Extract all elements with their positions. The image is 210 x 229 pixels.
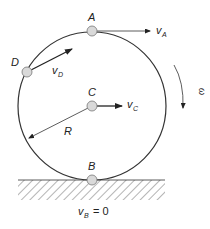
point-b — [87, 175, 97, 185]
omega-rotation-arrow — [174, 65, 183, 108]
label-vc-sub: C — [133, 105, 139, 112]
point-c — [87, 101, 97, 111]
rolling-wheel-diagram: A D C B R v A v D v C v B = 0 ω — [0, 0, 210, 229]
label-a: A — [87, 11, 95, 23]
label-c: C — [88, 86, 96, 98]
label-radius: R — [64, 125, 72, 137]
label-va-sub: A — [161, 31, 167, 38]
label-vb-eq: = 0 — [93, 205, 109, 217]
label-b: B — [88, 160, 95, 172]
point-a — [87, 26, 97, 36]
point-d — [22, 67, 32, 77]
label-omega: ω — [197, 88, 207, 95]
radius-line — [29, 106, 92, 138]
label-vd-sub: D — [58, 71, 63, 78]
label-d: D — [11, 56, 19, 68]
label-vb-sub: B — [84, 212, 89, 219]
